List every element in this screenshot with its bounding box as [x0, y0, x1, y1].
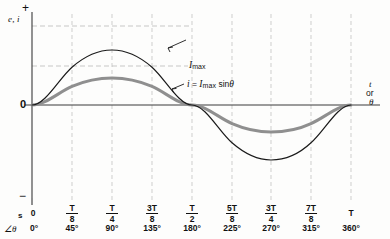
tick-angle-1: 45° — [66, 223, 79, 233]
axis-row-key-seconds: s — [18, 211, 22, 220]
peak-reference-lines — [32, 26, 190, 66]
tick-angle-4: 180° — [183, 223, 201, 233]
tick-time-3: 3T 8 — [145, 204, 159, 223]
tick-time-2: T 4 — [106, 204, 118, 223]
tick-time-5: 5T 8 — [225, 204, 239, 223]
tick-time-5-denominator: 8 — [225, 215, 239, 224]
tick-time-8-numerator: T — [346, 209, 355, 218]
equation-theta: θ — [229, 79, 234, 89]
tick-time-4: T 2 — [186, 204, 198, 223]
tick-time-2-denominator: 4 — [106, 215, 118, 224]
equation-label-current: i = Imax sinθ — [187, 79, 234, 89]
figure-canvas: + e, i − 0 t or θ Imax i = Imax sinθ s ∠… — [0, 0, 390, 239]
peak-label-imax: Imax — [189, 60, 206, 70]
horizontal-axis-label-theta: θ — [369, 97, 374, 107]
peak-label-subscript: max — [192, 63, 206, 70]
tick-angle-2: 90° — [106, 223, 119, 233]
leader-line-current-curve — [172, 84, 184, 93]
tick-angle-8: 360° — [342, 223, 360, 233]
origin-label: 0 — [20, 98, 26, 110]
equation-imax-subscript: max — [203, 82, 217, 89]
tick-time-3-denominator: 8 — [145, 215, 159, 224]
tick-time-5-numerator: 5T — [225, 204, 239, 213]
axis-row-key-angle: ∠θ — [4, 224, 16, 234]
tick-time-4-numerator: T — [186, 204, 198, 213]
leader-line-voltage-curve — [168, 40, 186, 52]
tick-angle-7: 315° — [302, 223, 320, 233]
tick-time-6-denominator: 4 — [264, 215, 278, 224]
tick-time-8: T — [346, 209, 355, 218]
tick-time-2-numerator: T — [106, 204, 118, 213]
equation-equals: = — [192, 79, 197, 89]
tick-time-0: 0 — [29, 209, 38, 218]
tick-time-0-numerator: 0 — [29, 209, 38, 218]
tick-time-6-numerator: 3T — [264, 204, 278, 213]
positive-sign: + — [22, 2, 29, 14]
tick-time-1-numerator: T — [66, 204, 78, 213]
tick-time-1-denominator: 8 — [66, 215, 78, 224]
tick-time-7-numerator: 7T — [304, 204, 318, 213]
tick-angle-3: 135° — [143, 223, 161, 233]
tick-time-6: 3T 4 — [264, 204, 278, 223]
tick-time-7-denominator: 8 — [304, 215, 318, 224]
vertical-axis-label: e, i — [8, 14, 20, 24]
tick-angle-5: 225° — [223, 223, 241, 233]
equation-sin: sin — [218, 79, 229, 89]
tick-time-1: T 8 — [66, 204, 78, 223]
tick-time-7: 7T 8 — [304, 204, 318, 223]
tick-time-4-denominator: 2 — [186, 215, 198, 224]
tick-angle-6: 270° — [262, 223, 280, 233]
tick-time-3-numerator: 3T — [145, 204, 159, 213]
vertical-gridlines — [72, 14, 351, 203]
negative-sign: − — [19, 190, 26, 202]
equation-i: i — [187, 79, 190, 89]
tick-angle-0: 0° — [30, 223, 38, 233]
